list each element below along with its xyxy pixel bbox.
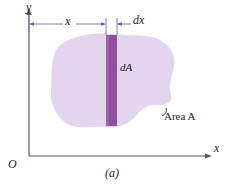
dimension-label-x: x: [65, 15, 70, 27]
dimension-arrow-dx-start: [117, 22, 122, 26]
dimension-label-dx: dx: [133, 14, 144, 26]
dimension-arrow-x-end: [101, 22, 106, 26]
differential-strip-highlight: [106, 35, 109, 126]
annotation-label-area: Area A: [164, 111, 195, 122]
origin-label: O: [8, 158, 17, 170]
figure-caption: (a): [105, 167, 119, 179]
figure-area-element-diagram: y O x x dx dA Area A (a): [0, 0, 228, 186]
y-axis-label: y: [26, 1, 31, 13]
x-axis-label: x: [214, 142, 219, 154]
dimension-arrow-x-start: [29, 22, 34, 26]
diagram-canvas: [0, 0, 228, 186]
annotation-label-dA: dA: [120, 62, 132, 73]
x-axis-arrowhead: [205, 153, 212, 158]
